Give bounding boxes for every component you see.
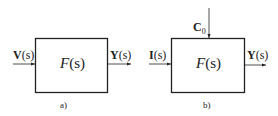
input-label-a: V(s) — [13, 48, 34, 63]
output-label-a: Y(s) — [110, 48, 131, 63]
input-label-b: I(s) — [149, 48, 166, 63]
transfer-function-a: F(s) — [60, 55, 85, 72]
disturbance-label-b: C0 — [193, 20, 206, 36]
diagram-lines — [0, 0, 278, 116]
transfer-function-b: F(s) — [196, 55, 221, 72]
output-label-b: Y(s) — [247, 48, 268, 63]
caption-a: a) — [60, 100, 67, 110]
caption-b: b) — [203, 100, 211, 110]
